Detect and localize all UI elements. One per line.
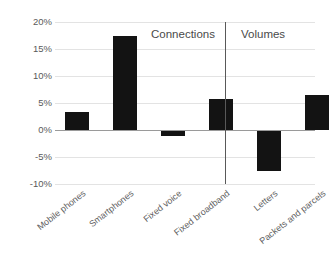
gridline [55, 103, 315, 104]
bar-fixed-voice [161, 131, 185, 136]
bar-packets-and-parcels [305, 95, 329, 130]
gridline [55, 49, 315, 50]
group-divider-line [225, 22, 226, 184]
plot-area [55, 22, 315, 184]
bar-smartphones [113, 36, 137, 130]
y-tick-label: 20% [4, 17, 52, 27]
bar-mobile-phones [65, 112, 89, 130]
gridline [55, 22, 315, 23]
gridline [55, 184, 315, 185]
bar-letters [257, 131, 281, 171]
y-tick-label: 15% [4, 44, 52, 54]
y-tick-label: 0% [4, 125, 52, 135]
x-axis-labels: Mobile phones Smartphones Fixed voice Fi… [0, 189, 331, 269]
gridline [55, 76, 315, 77]
bar-chart: 20% 15% 10% 5% 0% -5% -10% Connections V… [0, 0, 331, 272]
y-tick-label: -5% [4, 152, 52, 162]
bar-fixed-broadband [209, 99, 233, 130]
y-axis: 20% 15% 10% 5% 0% -5% -10% [0, 22, 52, 184]
group-label-volumes: Volumes [241, 29, 285, 41]
y-tick-label: 5% [4, 98, 52, 108]
group-label-connections: Connections [151, 29, 215, 41]
y-tick-label: 10% [4, 71, 52, 81]
y-tick-label: -10% [4, 179, 52, 189]
